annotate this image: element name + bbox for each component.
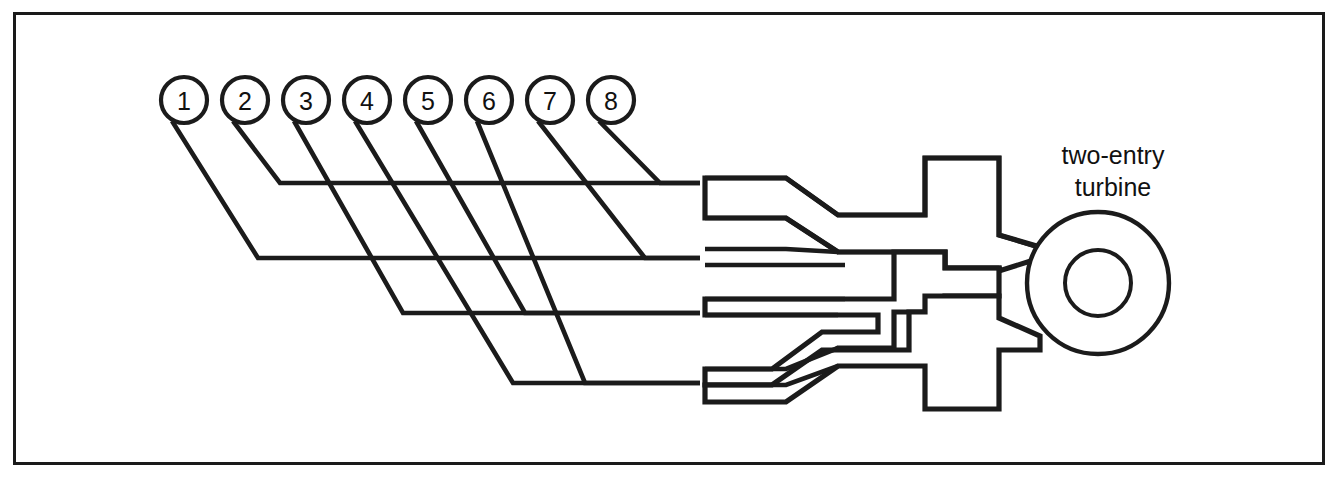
cylinder-label-7: 7 — [543, 87, 557, 115]
turbine-annotation-group: two-entry turbine — [1062, 141, 1165, 201]
cylinder-label-6: 6 — [482, 87, 496, 115]
upper-pipe-2-top-wall — [705, 249, 838, 252]
cylinder-label-8: 8 — [604, 87, 618, 115]
cylinder-label-1: 1 — [177, 87, 191, 115]
turbine-inner-circle — [1065, 250, 1131, 316]
two-entry-turbine-diagram: 1 2 3 4 5 6 7 8 two-entry turbine — [0, 0, 1336, 484]
cylinder-label-5: 5 — [421, 87, 435, 115]
cylinder-label-2: 2 — [238, 87, 252, 115]
turbine-label-line-1: two-entry — [1062, 141, 1165, 169]
turbine-label-line-2: turbine — [1075, 173, 1151, 201]
runner-group — [172, 121, 700, 383]
manifold-duct-group — [705, 158, 1040, 409]
turbine-wheel-group — [1027, 212, 1169, 354]
cylinder-group: 1 2 3 4 5 6 7 8 — [161, 77, 634, 123]
runner-cylinder-4 — [355, 121, 700, 383]
figure-root: 1 2 3 4 5 6 7 8 two-entry turbine — [0, 0, 1336, 484]
runner-cylinder-8 — [599, 121, 700, 183]
cylinder-label-3: 3 — [299, 87, 313, 115]
runner-cylinder-3 — [294, 121, 700, 313]
cylinder-label-4: 4 — [360, 87, 374, 115]
runner-cylinder-6 — [477, 121, 700, 383]
